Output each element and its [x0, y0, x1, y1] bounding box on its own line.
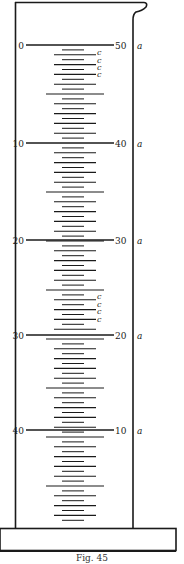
left-scale-label: 0 — [18, 41, 24, 51]
cylinder-base — [0, 529, 176, 551]
right-scale-label: 50 — [115, 41, 127, 51]
c-mark-label: c — [97, 315, 102, 324]
left-scale-label: 40 — [13, 426, 25, 436]
unit-label-a: a — [137, 41, 142, 51]
right-scale-label: 30 — [115, 236, 127, 246]
left-scale-label: 20 — [13, 236, 25, 246]
right-scale-label: 20 — [115, 331, 127, 341]
unit-label-a: a — [137, 426, 142, 436]
unit-label-a: a — [137, 236, 142, 246]
c-mark-label: c — [97, 70, 102, 79]
right-scale-label: 40 — [115, 139, 127, 149]
unit-label-a: a — [137, 139, 142, 149]
graduation-ticks — [26, 45, 114, 520]
figure-caption: Fig. 45 — [0, 553, 184, 563]
scale-labels: 050a1040a2030a3020a4010acccccccc — [13, 41, 143, 436]
left-scale-label: 30 — [13, 331, 25, 341]
right-scale-label: 10 — [115, 426, 127, 436]
unit-label-a: a — [137, 331, 142, 341]
left-scale-label: 10 — [13, 139, 25, 149]
cylinder-drawing: 050a1040a2030a3020a4010acccccccc — [0, 0, 184, 564]
cylinder-figure: 050a1040a2030a3020a4010acccccccc Fig. 45 — [0, 0, 184, 564]
